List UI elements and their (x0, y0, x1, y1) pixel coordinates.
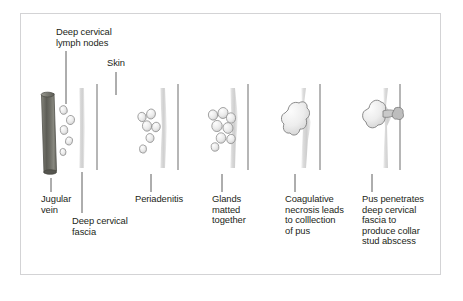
stage-4-necrosis-illustration (281, 84, 320, 170)
stage-2-periadenitis-illustration (137, 84, 178, 170)
deep-cervical-fascia-band-5 (383, 88, 392, 168)
medical-diagram-figure: Deep cervical lymph nodes Skin Jugular v… (0, 0, 463, 301)
lymph-node (65, 136, 74, 145)
lymph-node (66, 115, 75, 125)
deep-cervical-fascia-band-2 (160, 88, 167, 168)
lymph-node (139, 145, 147, 154)
jugular-vein-lumen (41, 92, 54, 97)
lymph-node (60, 125, 69, 135)
stage-3-matted-illustration (207, 84, 248, 170)
label-glands-matted-together: Glands matted together (212, 194, 246, 226)
deep-cervical-fascia-band-1 (79, 88, 85, 168)
lymph-node (145, 133, 154, 143)
lymph-node (211, 142, 220, 151)
label-jugular-vein: Jugular vein (41, 194, 71, 215)
jugular-vein-base (44, 170, 57, 175)
lymph-node (142, 120, 152, 131)
label-skin: Skin (107, 58, 125, 69)
lymph-node (151, 121, 162, 133)
label-pus-penetrates: Pus penetrates deep cervical fascia to p… (362, 194, 424, 247)
lymph-node (59, 105, 68, 115)
jugular-vein-body (42, 94, 57, 174)
collar-stud-deep-lobe (363, 100, 386, 128)
stage-5-penetration-illustration (363, 84, 404, 170)
lymph-node (211, 120, 223, 133)
label-periadenitis: Periadenitis (135, 194, 183, 205)
label-coagulative-necrosis: Coagulative necrosis leads to colllectio… (285, 194, 344, 236)
lymph-node (207, 109, 218, 121)
lymph-node (60, 148, 67, 156)
label-deep-cervical-lymph-nodes: Deep cervical lymph nodes (56, 27, 112, 48)
lymph-node (216, 132, 226, 143)
collar-stud-superficial-lobe (392, 107, 403, 119)
lymph-node (146, 108, 157, 120)
leader-lines (51, 51, 372, 213)
label-deep-cervical-fascia: Deep cervical fascia (72, 216, 128, 237)
stage-1-normal-illustration (41, 84, 97, 174)
